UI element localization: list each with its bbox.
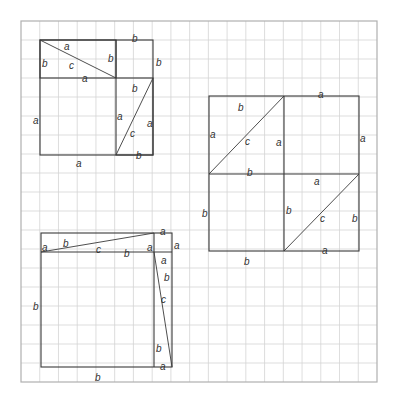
side-label-a: a xyxy=(314,176,320,187)
side-label-b: b xyxy=(124,248,130,259)
side-label-c: c xyxy=(69,60,74,71)
side-label-b: b xyxy=(352,213,358,224)
side-label-c: c xyxy=(245,136,250,147)
side-label-b: b xyxy=(33,301,39,312)
side-label-a: a xyxy=(117,111,123,122)
side-label-b: b xyxy=(238,102,244,113)
side-label-c: c xyxy=(161,294,166,305)
side-label-a: a xyxy=(160,361,166,372)
side-label-b: b xyxy=(136,150,142,161)
side-label-b: b xyxy=(132,83,138,94)
side-label-b: b xyxy=(247,167,253,178)
side-label-a: a xyxy=(64,41,70,52)
side-label-a: a xyxy=(42,242,48,253)
side-label-b: b xyxy=(108,53,114,64)
side-label-a: a xyxy=(210,129,216,140)
side-label-a: a xyxy=(360,133,366,144)
side-label-b: b xyxy=(164,272,170,283)
side-label-a: a xyxy=(33,115,39,126)
side-label-a: a xyxy=(76,158,82,169)
side-label-a: a xyxy=(318,89,324,100)
pythagorean-proof-diagram: babcbbabaaacbaabacaababbcbabaabcbaaabbcb… xyxy=(0,0,398,400)
side-label-c: c xyxy=(130,128,135,139)
side-label-b: b xyxy=(244,256,250,267)
side-label-b: b xyxy=(202,208,208,219)
side-label-a: a xyxy=(147,242,153,253)
side-label-b: b xyxy=(95,372,101,383)
side-label-b: b xyxy=(42,58,48,69)
side-label-a: a xyxy=(160,226,166,237)
side-label-a: a xyxy=(174,240,180,251)
background xyxy=(0,0,398,400)
side-label-b: b xyxy=(132,33,138,44)
side-label-c: c xyxy=(320,213,325,224)
side-label-c: c xyxy=(96,244,101,255)
side-label-a: a xyxy=(161,255,167,266)
side-label-a: a xyxy=(147,118,153,129)
side-label-b: b xyxy=(63,238,69,249)
side-label-b: b xyxy=(286,205,292,216)
side-label-b: b xyxy=(156,343,162,354)
side-label-a: a xyxy=(82,73,88,84)
side-label-a: a xyxy=(322,245,328,256)
side-label-b: b xyxy=(156,57,162,68)
side-label-a: a xyxy=(276,137,282,148)
